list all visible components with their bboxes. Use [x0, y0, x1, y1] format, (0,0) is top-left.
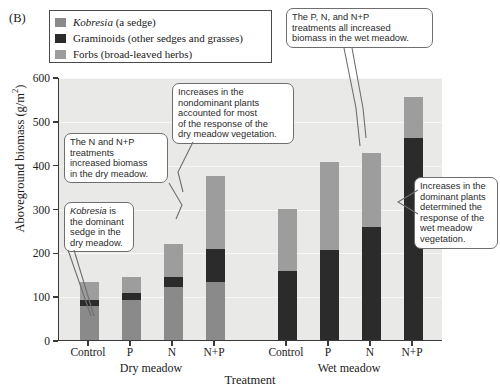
bar-segment-graminoids: [320, 250, 339, 340]
callout-nondominant-line-1: nondominant plants: [178, 98, 288, 109]
bar-segment-graminoids: [164, 277, 183, 287]
callout-dominant-wet-line-3: response of the: [420, 213, 492, 224]
y-axis-label-0: 0: [8, 335, 50, 347]
bar-segment-forbs: [80, 282, 99, 300]
callout-dry-n-np: The N and N+P treatments increased bioma…: [64, 133, 168, 183]
callout-dominant-wet-line-5: vegetation.: [420, 234, 492, 245]
callout-dominant-wet-line-0: Increases in the: [420, 181, 492, 192]
callout-kobresia-line-1: the dominant: [70, 217, 128, 228]
bar-segment-kobresia: [206, 282, 225, 340]
callout-wet-all-line-2: biomass in the wet meadow.: [292, 33, 427, 44]
x-axis-group-label-dry-meadow: Dry meadow: [120, 361, 182, 376]
bar-segment-kobresia: [80, 306, 99, 340]
bar-wet-n: [362, 153, 381, 340]
bar-segment-graminoids: [80, 300, 99, 306]
gridline-200: [59, 253, 442, 254]
legend-swatch-forbs: [55, 50, 66, 59]
callout-dominant-wet: Increases in the dominant plants determi…: [414, 177, 498, 249]
callout-kobresia-line-3: dry meadow.: [70, 238, 128, 249]
callout-kobresia-dominant: Kobresia is the dominant sedge in the dr…: [64, 202, 134, 252]
bar-dry-p: [122, 277, 141, 340]
bar-segment-kobresia: [122, 300, 141, 340]
bar-wet-p: [320, 162, 339, 340]
bar-segment-graminoids: [206, 249, 225, 282]
y-axis-label-600: 600: [8, 72, 50, 84]
gridline-100: [59, 297, 442, 298]
legend: Kobresia (a sedge) Graminoids (other sed…: [49, 10, 272, 63]
bar-dry-n: [164, 244, 183, 340]
figure-panel-b: (B) Kobresia (a sedge) Graminoids (other…: [0, 0, 500, 385]
bar-segment-forbs: [164, 244, 183, 277]
panel-label: (B): [9, 11, 26, 26]
bar-segment-forbs: [404, 97, 423, 138]
bar-dry-nplusp: [206, 176, 225, 340]
bar-segment-kobresia: [164, 287, 183, 340]
x-axis-label-nplusp-dry: N+P: [203, 346, 224, 358]
bar-segment-forbs: [122, 277, 141, 293]
legend-label-forbs: Forbs (broad-leaved herbs): [73, 49, 192, 60]
legend-swatch-graminoids: [55, 34, 66, 43]
callout-dry-n-np-line-1: treatments: [70, 148, 162, 159]
y-axis-label-400: 400: [8, 160, 50, 172]
bar-segment-forbs: [206, 176, 225, 250]
bar-segment-graminoids: [278, 271, 297, 340]
x-axis-label-p-dry: P: [127, 346, 133, 358]
x-axis-label-control-wet: Control: [268, 346, 303, 358]
callout-dry-n-np-line-2: increased biomass: [70, 158, 162, 169]
callout-wet-all-line-0: The P, N, and N+P: [292, 12, 427, 23]
legend-label-kobresia: Kobresia (a sedge): [73, 17, 156, 28]
y-axis-label-100: 100: [8, 291, 50, 303]
callout-nondominant-line-2: accounted for most: [178, 108, 288, 119]
x-axis-group-label-wet-meadow: Wet meadow: [318, 361, 381, 376]
callout-kobresia-italic-word: Kobresia: [70, 206, 107, 216]
x-axis-label-nplusp-wet: N+P: [401, 346, 422, 358]
legend-item-kobresia: Kobresia (a sedge): [55, 14, 271, 30]
gridline-600: [59, 78, 442, 79]
callout-nondominant-line-0: Increases in the: [178, 87, 288, 98]
y-axis-label-500: 500: [8, 116, 50, 128]
callout-dry-n-np-line-0: The N and N+P: [70, 137, 162, 148]
legend-item-forbs: Forbs (broad-leaved herbs): [55, 46, 271, 62]
x-axis-label-n-dry: N: [168, 346, 176, 358]
legend-item-graminoids: Graminoids (other sedges and grasses): [55, 30, 271, 46]
callout-wet-all-increased: The P, N, and N+P treatments all increas…: [286, 8, 433, 48]
bar-segment-graminoids: [122, 293, 141, 300]
legend-label-kobresia-rest: (a sedge): [113, 16, 156, 28]
bar-wet-control: [278, 209, 297, 341]
callout-nondominant-line-3: of the response of the: [178, 119, 288, 130]
y-axis-title-superscript: 2: [10, 89, 20, 93]
x-axis-label-n-wet: N: [366, 346, 374, 358]
bar-dry-control: [80, 282, 99, 340]
x-axis-label-control-dry: Control: [70, 346, 105, 358]
bar-segment-forbs: [278, 209, 297, 271]
callout-wet-all-line-1: treatments all increased: [292, 23, 427, 34]
legend-swatch-kobresia: [55, 18, 66, 27]
callout-nondominant-line-4: dry meadow vegetation.: [178, 129, 288, 140]
y-axis-title-end: ): [13, 85, 27, 89]
callout-dominant-wet-line-4: wet meadow: [420, 223, 492, 234]
legend-label-graminoids: Graminoids (other sedges and grasses): [73, 33, 243, 44]
callout-dominant-wet-line-2: determined the: [420, 202, 492, 213]
callout-nondominant: Increases in the nondominant plants acco…: [172, 83, 294, 144]
y-axis-label-200: 200: [8, 247, 50, 259]
callout-kobresia-line-2: sedge in the: [70, 227, 128, 238]
callout-kobresia-line-0: Kobresia is: [70, 206, 128, 217]
x-axis-label-p-wet: P: [325, 346, 331, 358]
y-axis-label-300: 300: [8, 204, 50, 216]
bar-segment-forbs: [362, 153, 381, 227]
callout-dry-n-np-line-3: in the dry meadow.: [70, 169, 162, 180]
x-axis-title: Treatment: [225, 373, 276, 385]
legend-label-kobresia-italic: Kobresia: [73, 16, 113, 28]
bar-segment-graminoids: [362, 227, 381, 340]
callout-dominant-wet-line-1: dominant plants: [420, 192, 492, 203]
bar-segment-forbs: [320, 162, 339, 251]
